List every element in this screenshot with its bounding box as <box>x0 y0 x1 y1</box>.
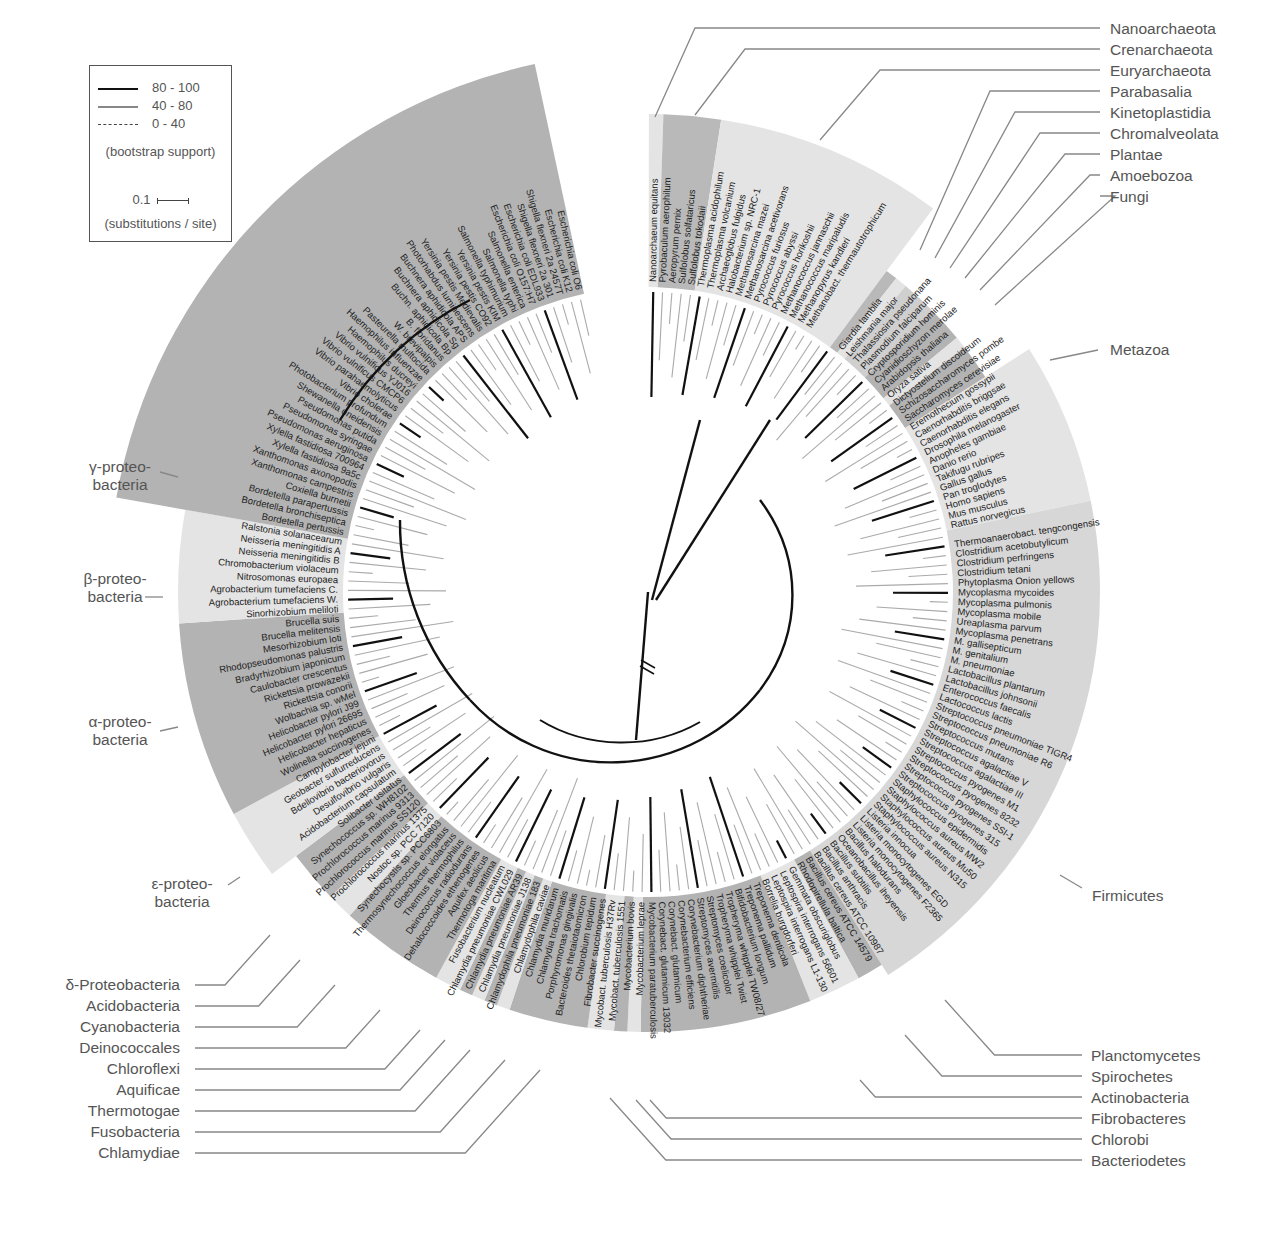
leaf-branch <box>850 687 920 720</box>
leaf-branch <box>350 620 416 628</box>
root-branch <box>636 592 648 740</box>
leaf-branch <box>355 526 374 530</box>
leaf-branch <box>897 449 912 457</box>
leaf-branch <box>831 418 892 462</box>
leaf-branch <box>527 317 559 389</box>
leaf-branch <box>349 572 373 574</box>
leaf-branch <box>669 293 671 324</box>
leaf-branch <box>577 817 593 884</box>
leaf-branch <box>901 701 923 711</box>
group-label-kinetoplastidia: Kinetoplastidia <box>1110 104 1211 122</box>
leaf-branch <box>923 556 946 559</box>
leaf-branch <box>795 779 833 828</box>
leader-line-bottom-left-1 <box>195 960 300 1006</box>
leaf-branch <box>411 408 443 433</box>
leaf-branch <box>795 721 873 789</box>
group-label-parabasalia: Parabasalia <box>1110 83 1192 101</box>
firmicutes-arc <box>760 500 792 690</box>
leaf-branch <box>377 464 404 477</box>
group-label-crenarchaeota: Crenarchaeota <box>1110 41 1213 59</box>
leaf-branch <box>877 607 948 612</box>
leaf-branch <box>519 321 530 344</box>
leaf-branch <box>909 574 948 576</box>
leaf-branch <box>554 307 572 362</box>
archaea-branch <box>652 420 700 600</box>
leaf-branch <box>586 870 589 886</box>
leaf-branch <box>433 778 457 801</box>
leaf-branch <box>797 750 854 810</box>
legend-row-high: 80 - 100 <box>98 80 200 96</box>
leaf-branch <box>806 369 849 417</box>
group-label-chloroflexi: Chloroflexi <box>0 1060 180 1078</box>
leaf-branch <box>494 334 518 374</box>
group-label-deinococcales: Deinococcales <box>0 1039 180 1057</box>
leaf-branch <box>349 616 378 619</box>
leaf-branch <box>763 322 779 355</box>
group-label-acidobacteria: Acidobacteria <box>0 997 180 1015</box>
leaf-branch <box>571 302 590 374</box>
leaf-branch <box>872 501 934 521</box>
legend-row-mid: 40 - 80 <box>98 98 192 114</box>
leader-line-firmicutes <box>1060 875 1082 888</box>
leaf-branch <box>348 581 409 583</box>
leaf-branch <box>664 812 670 891</box>
leaf-branch <box>423 394 466 432</box>
leaf-branch <box>536 314 552 353</box>
leaf-branch <box>886 742 902 752</box>
leaf-branch <box>379 715 400 725</box>
leaf-branch <box>352 544 444 559</box>
leaf-branch <box>930 602 948 603</box>
group-label-gamma-proteobacteria: γ-proteo-bacteria <box>70 458 170 494</box>
scale-bar-icon <box>157 198 189 204</box>
leaf-branch <box>863 747 891 767</box>
leader-line-bottom-right-4 <box>636 1100 1082 1139</box>
bacteria-arc <box>470 690 760 762</box>
leaf-branch <box>680 827 689 889</box>
leaf-branch <box>351 553 391 558</box>
leader-line-bottom-left-7 <box>195 1060 505 1132</box>
leaf-branch <box>854 458 917 489</box>
leaf-branch <box>898 528 941 537</box>
species-label: Agrobacterium tumefaciens C. <box>210 583 338 595</box>
group-label-chlorobi: Chlorobi <box>1091 1131 1149 1149</box>
leaf-branch <box>581 300 589 336</box>
leaf-branch <box>697 802 716 884</box>
leaf-branch <box>429 387 444 401</box>
group-label-metazoa: Metazoa <box>1110 341 1169 359</box>
group-label-fibrobacteres: Fibrobacteres <box>1091 1110 1186 1128</box>
leader-line-right-2 <box>820 70 1100 140</box>
leaf-branch <box>405 416 468 462</box>
scale-caption: (substitutions / site) <box>90 216 231 231</box>
leaf-branch <box>562 304 568 324</box>
solid-gray-line-icon <box>98 106 138 108</box>
group-label-chromalveolata: Chromalveolata <box>1110 125 1219 143</box>
leader-line-bottom-left-0 <box>195 935 270 985</box>
eukarya-branch <box>656 420 770 600</box>
leaf-branch <box>835 403 881 440</box>
leaf-branch <box>684 295 691 342</box>
leaf-branch <box>895 632 944 640</box>
leaf-branch <box>659 850 661 892</box>
group-label-planctomycetes: Planctomycetes <box>1091 1047 1200 1065</box>
leaf-branch <box>362 677 379 682</box>
leaf-branch <box>910 660 938 667</box>
leaf-branch <box>372 693 408 708</box>
leaf-branch <box>774 341 812 399</box>
leaf-branch <box>447 802 458 815</box>
leaf-branch <box>516 790 551 862</box>
leaf-branch <box>442 374 467 400</box>
leaf-branch <box>734 825 752 874</box>
leaf-branch <box>368 667 454 700</box>
group-label-spirochetes: Spirochetes <box>1091 1068 1173 1086</box>
leaf-branch <box>366 490 414 507</box>
group-label-cyanobacteria: Cyanobacteria <box>0 1018 180 1036</box>
leaf-branch <box>358 516 428 534</box>
leaf-branch <box>393 727 430 750</box>
leaf-branch <box>672 294 681 377</box>
group-label-delta-proteobacteria: δ-Proteobacteria <box>0 976 180 994</box>
leaf-branch <box>349 562 426 570</box>
leader-line-right-5 <box>950 133 1100 268</box>
leaf-branch <box>385 447 425 469</box>
leaf-branch <box>357 656 390 664</box>
leader-line-bottom-left-3 <box>195 1010 380 1048</box>
